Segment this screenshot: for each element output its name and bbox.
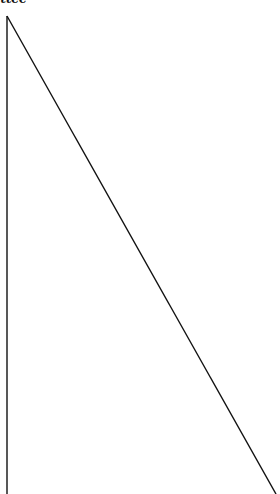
- triangle-diagram: [0, 0, 280, 494]
- diagonal-line: [7, 16, 276, 494]
